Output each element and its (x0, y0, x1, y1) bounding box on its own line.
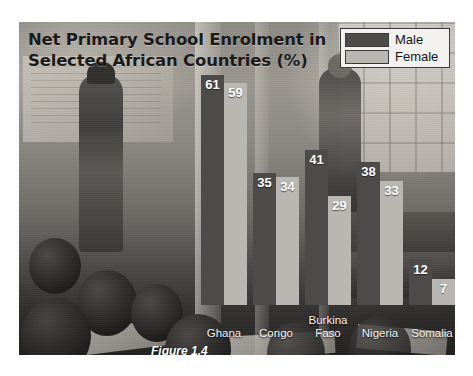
bar-congo-male[interactable]: 35 (253, 60, 276, 305)
bar-ghana-male[interactable]: 61 (201, 60, 224, 305)
x-axis-label-burkina-faso: Burkina Faso (299, 314, 357, 339)
chart-title-line-1: Net Primary School Enrolment in (28, 29, 328, 50)
x-axis-label-ghana: Ghana (195, 327, 253, 340)
bar-value-label: 41 (305, 153, 328, 167)
bar-fill (305, 150, 328, 305)
x-axis-label-nigeria: Nigeria (351, 327, 409, 340)
bar-burkina-faso-male[interactable]: 41 (305, 60, 328, 305)
standing-person-left (79, 74, 123, 252)
legend-swatch-male (345, 33, 389, 47)
bar-pair: 3534 (253, 60, 299, 305)
bar-fill (357, 162, 380, 305)
bar-fill (201, 75, 224, 305)
bar-pair: 3833 (357, 60, 403, 305)
bar-burkina-faso-female[interactable]: 29 (328, 60, 351, 305)
pupil-head (29, 238, 81, 294)
bar-value-label: 29 (328, 199, 351, 213)
legend-label-male: Male (395, 32, 423, 47)
bar-fill (224, 83, 247, 305)
x-axis-label-congo: Congo (247, 327, 305, 340)
bar-nigeria-male[interactable]: 38 (357, 60, 380, 305)
bar-somalia-male[interactable]: 12 (409, 60, 432, 305)
bar-fill (253, 173, 276, 305)
bar-ghana-female[interactable]: 59 (224, 60, 247, 305)
x-axis-label-somalia: Somalia (403, 327, 455, 340)
bar-chart-plot-area: 6159Ghana3534Congo4129Burkina Faso3833Ni… (189, 60, 451, 343)
bar-value-label: 12 (409, 263, 432, 277)
bar-value-label: 7 (432, 282, 455, 296)
bar-congo-female[interactable]: 34 (276, 60, 299, 305)
bar-pair: 127 (409, 60, 455, 305)
bar-value-label: 61 (201, 78, 224, 92)
bar-pair: 4129 (305, 60, 351, 305)
bar-somalia-female[interactable]: 7 (432, 60, 455, 305)
bar-value-label: 35 (253, 176, 276, 190)
figure-caption: Figure 1.4 (151, 344, 208, 355)
bar-value-label: 34 (276, 180, 299, 194)
bar-value-label: 59 (224, 86, 247, 100)
figure-photo-frame: Net Primary School Enrolment in Selected… (19, 22, 455, 355)
bar-fill (380, 181, 403, 305)
bar-value-label: 38 (357, 165, 380, 179)
bar-nigeria-female[interactable]: 33 (380, 60, 403, 305)
legend-item-male: Male (343, 31, 447, 48)
bar-fill (276, 177, 299, 305)
bar-pair: 6159 (201, 60, 247, 305)
bar-value-label: 33 (380, 184, 403, 198)
